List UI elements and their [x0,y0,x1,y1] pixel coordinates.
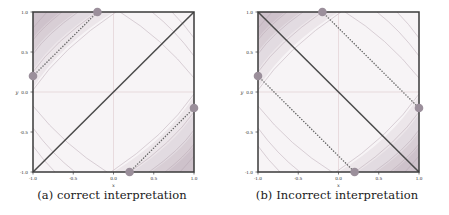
xtick-label: 0.5 [375,176,382,181]
ytick-label: -1.0 [20,170,28,175]
marker-point[interactable] [350,168,359,177]
xtick-label: -1.0 [254,176,262,181]
y-axis-title: y [15,89,19,96]
subplot-b: -1.0 -0.5 0.0 0.5 1.0 1.0 0.5 0.0 -0.5 -… [225,0,449,215]
xtick-label: 1.0 [416,176,423,181]
marker-point[interactable] [415,104,424,113]
y-axis-title: y [240,89,244,96]
x-axis-ticks-a: -1.0 -0.5 0.0 0.5 1.0 [29,172,198,181]
marker-point[interactable] [190,104,199,113]
contour-field-a [33,12,194,172]
xtick-label: 0.5 [150,176,157,181]
x-axis-ticks-b: -1.0 -0.5 0.0 0.5 1.0 [254,172,423,181]
marker-point[interactable] [29,72,38,81]
ytick-label: -0.5 [20,130,28,135]
marker-point[interactable] [254,72,263,81]
ytick-label: -1.0 [245,170,253,175]
ytick-label: 0.5 [21,50,28,55]
plot-b-svg: -1.0 -0.5 0.0 0.5 1.0 1.0 0.5 0.0 -0.5 -… [225,0,449,188]
ytick-label: 1.0 [21,10,28,15]
xtick-label: -0.5 [294,176,302,181]
marker-point[interactable] [93,8,102,17]
ytick-label: 0.5 [246,50,253,55]
plot-a-svg: -1.0 -0.5 0.0 0.5 1.0 1.0 0.5 0.0 -0.5 -… [0,0,224,188]
caption-a: (a) correct interpretation [0,188,224,202]
xtick-label: -0.5 [69,176,77,181]
xtick-label: 0.0 [335,176,342,181]
subplot-a: -1.0 -0.5 0.0 0.5 1.0 1.0 0.5 0.0 -0.5 -… [0,0,224,215]
ytick-label: 0.0 [246,90,253,95]
ytick-label: -0.5 [245,130,253,135]
y-axis-ticks-a: 1.0 0.5 0.0 -0.5 -1.0 [20,10,33,175]
y-axis-ticks-b: 1.0 0.5 0.0 -0.5 -1.0 [245,10,258,175]
xtick-label: 1.0 [191,176,198,181]
xtick-label: -1.0 [29,176,37,181]
ytick-label: 0.0 [21,90,28,95]
caption-b: (b) Incorrect interpretation [225,188,449,202]
marker-point[interactable] [318,8,327,17]
marker-point[interactable] [125,168,134,177]
xtick-label: 0.0 [110,176,117,181]
ytick-label: 1.0 [246,10,253,15]
figure-container: -1.0 -0.5 0.0 0.5 1.0 1.0 0.5 0.0 -0.5 -… [0,0,449,215]
